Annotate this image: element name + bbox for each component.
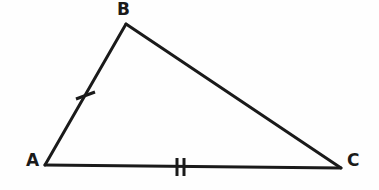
vertex-label-b: B — [117, 1, 130, 18]
triangle-diagram: A B C — [0, 0, 379, 190]
vertex-label-a: A — [26, 152, 39, 169]
triangle-figure — [0, 0, 379, 190]
congruence-tick-marks — [76, 92, 184, 176]
triangle-sides — [45, 24, 341, 168]
side-BC — [126, 24, 341, 168]
vertex-label-c: C — [347, 152, 360, 169]
side-AC — [45, 165, 341, 168]
